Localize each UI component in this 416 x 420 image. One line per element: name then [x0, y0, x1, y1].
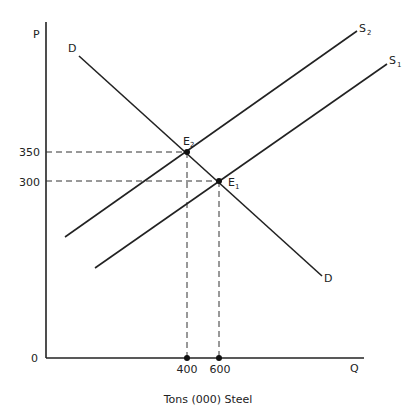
s1-label: S	[389, 54, 396, 67]
demand-label-top: D	[68, 42, 76, 55]
y-tick-350: 350	[19, 146, 40, 159]
supply-demand-chart: P Q 0 350 300 400 600 Tons (000) Steel D…	[0, 0, 416, 420]
q-axis-label: Q	[350, 362, 359, 375]
demand-label-bottom: D	[324, 272, 332, 285]
e1-subscript: 1	[235, 183, 239, 191]
equilibrium-e2-point	[184, 149, 190, 155]
y-tick-300: 300	[19, 176, 40, 189]
p-axis-label: P	[33, 28, 40, 41]
s2-label: S	[359, 22, 366, 35]
e1-label: E	[228, 176, 235, 189]
supply-curve-s2	[65, 31, 357, 237]
x-tick-400: 400	[177, 363, 198, 376]
supply-curve-s1	[95, 64, 387, 268]
guide-lines	[46, 152, 219, 358]
e2-label: E	[183, 135, 190, 148]
e2-subscript: 2	[190, 141, 194, 149]
q400-point	[184, 355, 190, 361]
x-tick-600: 600	[210, 363, 231, 376]
x-axis-title: Tons (000) Steel	[163, 393, 253, 406]
origin-label: 0	[31, 352, 38, 365]
demand-curve	[79, 56, 322, 276]
s1-subscript: 1	[397, 61, 401, 69]
s2-subscript: 2	[367, 29, 371, 37]
q600-point	[216, 355, 222, 361]
equilibrium-e1-point	[216, 178, 222, 184]
